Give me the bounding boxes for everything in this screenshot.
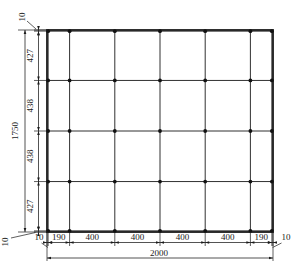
dim-label-bottom-5: 400 (221, 232, 235, 242)
dim-label-bottom-7: 10 (282, 232, 292, 242)
node-dot (203, 79, 207, 83)
dim-label-total-height: 1750 (10, 122, 20, 141)
node-dot (113, 79, 117, 83)
dim-label-bottom-4: 400 (176, 232, 190, 242)
dim-arrow (37, 127, 40, 131)
dim-arrow (66, 241, 70, 244)
dim-arrow (37, 80, 40, 84)
node-dot (68, 180, 72, 184)
dim-arrow (43, 241, 47, 244)
dim-arrow (24, 228, 27, 232)
leader-line (11, 233, 36, 239)
dim-label-left-2: 438 (26, 98, 36, 112)
dim-arrow (273, 241, 277, 244)
dim-arrow (37, 76, 40, 80)
dim-label-left-5: 10 (0, 237, 10, 247)
dim-arrow (37, 31, 40, 35)
dim-arrow (268, 241, 272, 244)
node-dot (113, 129, 117, 133)
node-dot (249, 129, 253, 133)
dim-arrow (37, 227, 40, 231)
dim-label-bottom-1: 190 (52, 232, 66, 242)
leader-line (27, 21, 36, 29)
dim-arrow (37, 131, 40, 135)
dim-label-left-3: 438 (26, 149, 36, 163)
dim-label-left-0: 10 (17, 12, 27, 22)
dim-arrow (37, 182, 40, 186)
node-dot (270, 79, 274, 83)
dim-arrow (205, 241, 209, 244)
dim-label-bottom-2: 400 (85, 232, 99, 242)
node-dot (270, 29, 274, 33)
dim-arrow (115, 241, 119, 244)
node-dot (249, 29, 253, 33)
node-dot (270, 180, 274, 184)
node-dot (203, 180, 207, 184)
dim-label-left-1: 427 (26, 49, 36, 63)
dim-arrow (37, 178, 40, 182)
dim-arrow (156, 241, 160, 244)
dim-arrow (269, 257, 273, 260)
dim-arrow (24, 30, 27, 34)
node-dot (203, 129, 207, 133)
node-dot (68, 129, 72, 133)
dim-label-left-4: 427 (26, 199, 36, 213)
node-dot (158, 180, 162, 184)
dim-label-bottom-3: 400 (131, 232, 145, 242)
dim-label-bottom-0: 10 (35, 232, 45, 242)
node-dot (68, 29, 72, 33)
dim-arrow (70, 241, 74, 244)
node-dot (249, 180, 253, 184)
node-dot (158, 79, 162, 83)
node-dot (249, 79, 253, 83)
dim-label-total-width: 2000 (150, 248, 169, 258)
dim-arrow (37, 26, 40, 30)
node-dot (158, 129, 162, 133)
node-dot (158, 29, 162, 33)
node-dot (113, 180, 117, 184)
dim-arrow (111, 241, 115, 244)
node-dot (203, 29, 207, 33)
node-dot (270, 129, 274, 133)
drawing-canvas: 1019040040040040019010200010427438438427… (0, 0, 304, 277)
dim-arrow (246, 241, 250, 244)
left-dimensions: 10427438438427101750 (0, 12, 47, 247)
dim-arrow (201, 241, 205, 244)
bottom-dimensions: 10190400400400400190102000 (35, 232, 292, 261)
dim-label-bottom-6: 190 (254, 232, 268, 242)
dim-arrow (47, 257, 51, 260)
dim-arrow (160, 241, 164, 244)
node-dot (68, 79, 72, 83)
engineering-drawing: 1019040040040040019010200010427438438427… (0, 0, 304, 277)
leader-line (273, 243, 282, 248)
node-dot (113, 29, 117, 33)
